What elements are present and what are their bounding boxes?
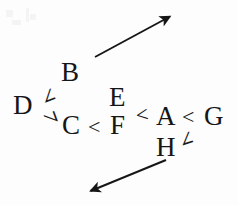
upper-right-arrow: [95, 17, 170, 58]
node-g: G: [204, 103, 224, 130]
node-e: E: [109, 84, 126, 111]
relation-d-lt-b-angle-icon: ∠: [37, 84, 60, 109]
node-b: B: [61, 59, 79, 86]
lower-left-arrow: [91, 160, 167, 191]
scan-speck: [26, 8, 29, 22]
node-f: F: [110, 112, 125, 139]
relation-f-lt-a: <: [135, 103, 150, 127]
relation-a-lt-g: <: [182, 106, 194, 128]
relation-d-lt-c-angle-icon: ∠: [39, 107, 64, 130]
scan-speck: [30, 14, 36, 20]
node-a: A: [156, 103, 176, 130]
node-d: D: [13, 92, 33, 119]
order-relation-diagram: B ∠ D E ∠ C < F < A < G H ∠: [0, 0, 238, 205]
relation-c-lt-f: <: [88, 116, 100, 138]
relation-h-lt-a-angle-icon: ∠: [175, 127, 197, 151]
node-h: H: [156, 134, 176, 161]
scan-speck: [12, 20, 21, 25]
scan-speck: [6, 10, 13, 17]
node-c: C: [62, 112, 80, 139]
